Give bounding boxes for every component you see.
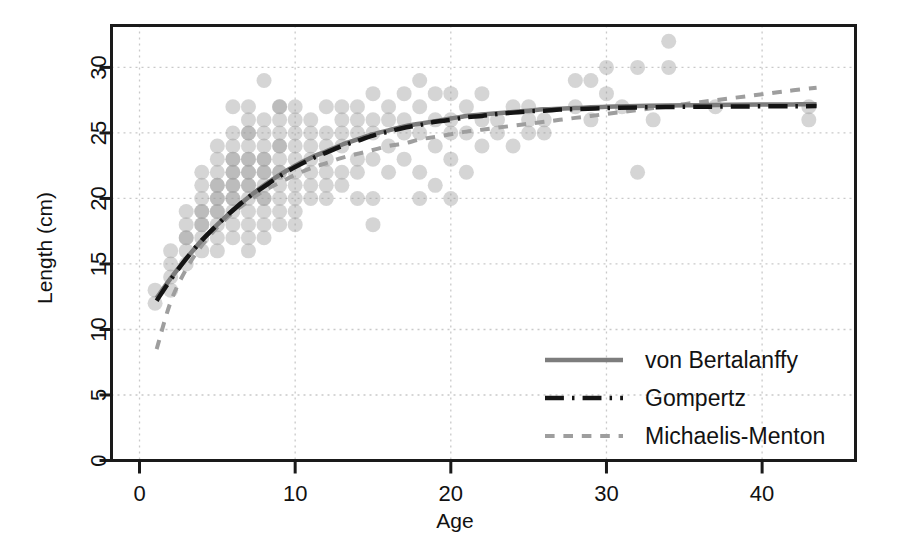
scatter-point xyxy=(412,191,427,206)
scatter-point xyxy=(599,60,614,75)
y-axis-title: Length (cm) xyxy=(33,192,56,304)
scatter-point xyxy=(241,139,256,154)
legend-label-michaelis-menton: Michaelis-Menton xyxy=(645,423,825,449)
scatter-point xyxy=(365,86,380,101)
scatter-point xyxy=(288,204,303,219)
scatter-point xyxy=(443,191,458,206)
scatter-point xyxy=(412,125,427,140)
scatter-point xyxy=(428,86,443,101)
scatter-point xyxy=(365,217,380,232)
scatter-point xyxy=(412,99,427,114)
scatter-point xyxy=(210,191,225,206)
scatter-point xyxy=(303,125,318,140)
scatter-point xyxy=(521,125,536,140)
x-tick-label: 20 xyxy=(439,481,463,506)
y-tick-label: 5 xyxy=(86,389,111,401)
legend-label-gompertz: Gompertz xyxy=(645,385,746,411)
scatter-point xyxy=(241,112,256,127)
scatter-point xyxy=(381,165,396,180)
scatter-point xyxy=(365,191,380,206)
chart-figure: 051015202530 010203040 Length (cm) Age v… xyxy=(0,0,901,546)
y-tick-label: 10 xyxy=(86,317,111,341)
scatter-point xyxy=(350,99,365,114)
x-tick-label: 40 xyxy=(750,481,774,506)
scatter-point xyxy=(210,152,225,167)
scatter-point xyxy=(194,178,209,193)
scatter-point xyxy=(288,139,303,154)
scatter-point xyxy=(241,243,256,258)
scatter-point xyxy=(257,204,272,219)
scatter-point xyxy=(257,125,272,140)
scatter-point xyxy=(288,112,303,127)
scatter-point xyxy=(381,99,396,114)
scatter-point xyxy=(428,139,443,154)
scatter-point xyxy=(194,204,209,219)
scatter-point xyxy=(288,178,303,193)
scatter-point xyxy=(319,125,334,140)
scatter-point xyxy=(194,165,209,180)
scatter-point xyxy=(288,99,303,114)
scatter-point xyxy=(194,217,209,232)
scatter-point xyxy=(257,230,272,245)
scatter-point xyxy=(334,165,349,180)
growth-curve-chart: 051015202530 010203040 Length (cm) Age v… xyxy=(0,0,901,546)
scatter-point xyxy=(365,152,380,167)
scatter-point xyxy=(257,165,272,180)
scatter-point xyxy=(241,152,256,167)
scatter-point xyxy=(272,125,287,140)
scatter-point xyxy=(225,152,240,167)
scatter-point xyxy=(179,217,194,232)
scatter-point xyxy=(350,165,365,180)
scatter-point xyxy=(272,152,287,167)
scatter-point xyxy=(412,165,427,180)
y-tick-label: 15 xyxy=(86,252,111,276)
scatter-point xyxy=(661,60,676,75)
scatter-point xyxy=(257,139,272,154)
scatter-point xyxy=(334,178,349,193)
scatter-point xyxy=(288,125,303,140)
scatter-point xyxy=(397,152,412,167)
scatter-point xyxy=(194,191,209,206)
scatter-point xyxy=(210,139,225,154)
scatter-point xyxy=(272,112,287,127)
scatter-point xyxy=(272,191,287,206)
scatter-point xyxy=(225,230,240,245)
scatter-point xyxy=(241,125,256,140)
scatter-point xyxy=(334,112,349,127)
scatter-point xyxy=(459,165,474,180)
scatter-point xyxy=(646,112,661,127)
scatter-point xyxy=(272,204,287,219)
scatter-point xyxy=(537,112,552,127)
scatter-point xyxy=(272,139,287,154)
scatter-point xyxy=(568,73,583,88)
scatter-point xyxy=(257,217,272,232)
scatter-point xyxy=(257,112,272,127)
scatter-point xyxy=(225,165,240,180)
scatter-point xyxy=(365,112,380,127)
scatter-point xyxy=(412,73,427,88)
scatter-point xyxy=(801,112,816,127)
scatter-point xyxy=(459,99,474,114)
x-tick-label: 0 xyxy=(133,481,145,506)
scatter-point xyxy=(599,86,614,101)
scatter-point xyxy=(225,99,240,114)
y-tick-label: 20 xyxy=(86,186,111,210)
scatter-point xyxy=(225,125,240,140)
scatter-point xyxy=(257,152,272,167)
scatter-point xyxy=(350,112,365,127)
scatter-point xyxy=(319,178,334,193)
scatter-point xyxy=(179,204,194,219)
scatter-point xyxy=(272,217,287,232)
scatter-point xyxy=(630,165,645,180)
y-tick-label: 25 xyxy=(86,121,111,145)
scatter-point xyxy=(225,178,240,193)
scatter-point xyxy=(241,99,256,114)
scatter-point xyxy=(474,86,489,101)
scatter-point xyxy=(210,178,225,193)
scatter-point xyxy=(225,139,240,154)
scatter-point xyxy=(334,125,349,140)
x-axis-title: Age xyxy=(436,509,473,532)
x-tick-label: 10 xyxy=(283,481,307,506)
scatter-point xyxy=(630,60,645,75)
scatter-point xyxy=(661,34,676,49)
